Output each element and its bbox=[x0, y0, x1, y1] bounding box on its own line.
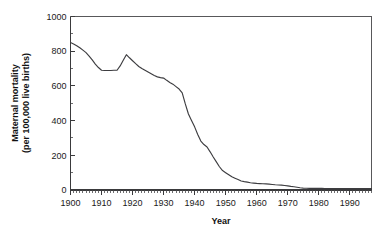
y-tick-label: 1000 bbox=[46, 12, 66, 22]
y-axis-title-line-1: Maternal mortality bbox=[10, 64, 20, 142]
y-tick-label: 600 bbox=[51, 81, 66, 91]
x-axis-tick-labels: 1900191019201930194019501960197019801990 bbox=[60, 198, 359, 208]
x-axis-ticks bbox=[71, 190, 372, 195]
y-tick-label: 200 bbox=[51, 151, 66, 161]
x-tick-label: 1960 bbox=[247, 198, 267, 208]
x-tick-label: 1950 bbox=[216, 198, 236, 208]
x-tick-label: 1990 bbox=[340, 198, 360, 208]
y-axis-tick-labels: 02004006008001000 bbox=[46, 12, 66, 196]
x-tick-label: 1940 bbox=[185, 198, 205, 208]
x-axis-title: Year bbox=[211, 216, 231, 226]
x-tick-label: 1910 bbox=[92, 198, 112, 208]
x-tick-label: 1900 bbox=[60, 198, 80, 208]
x-tick-label: 1920 bbox=[123, 198, 143, 208]
x-tick-label: 1970 bbox=[278, 198, 298, 208]
maternal-mortality-line-chart: 02004006008001000 1900191019201930194019… bbox=[0, 0, 385, 239]
data-series-line bbox=[71, 43, 372, 189]
x-tick-label: 1930 bbox=[154, 198, 174, 208]
y-tick-label: 0 bbox=[61, 185, 66, 195]
plot-frame bbox=[71, 17, 372, 191]
y-tick-label: 400 bbox=[51, 116, 66, 126]
y-axis-title-line-2: (per 100,000 live births) bbox=[21, 53, 31, 153]
y-tick-label: 800 bbox=[51, 46, 66, 56]
x-tick-label: 1980 bbox=[309, 198, 329, 208]
chart-figure: 02004006008001000 1900191019201930194019… bbox=[0, 0, 385, 239]
